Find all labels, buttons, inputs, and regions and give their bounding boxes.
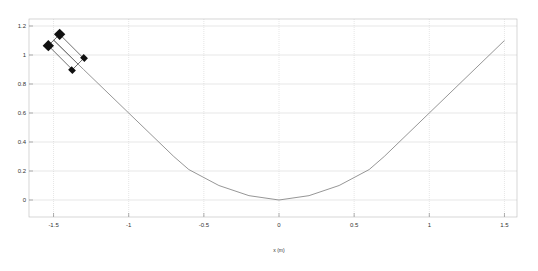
axes-frame xyxy=(29,19,517,217)
svg-text:1: 1 xyxy=(23,52,27,58)
x-axis: -1.5-1-0.500.511.5 xyxy=(48,213,509,228)
svg-text:-1.5: -1.5 xyxy=(48,222,59,228)
svg-text:0.5: 0.5 xyxy=(350,222,359,228)
svg-text:-0.5: -0.5 xyxy=(199,222,210,228)
chart: -1.5-1-0.500.511.5 00.20.40.60.811.2 x (… xyxy=(0,0,538,271)
svg-text:0: 0 xyxy=(277,222,281,228)
svg-text:1.5: 1.5 xyxy=(500,222,509,228)
path-line xyxy=(54,41,505,201)
svg-text:0.8: 0.8 xyxy=(18,81,27,87)
svg-text:0.2: 0.2 xyxy=(18,168,27,174)
svg-text:1.2: 1.2 xyxy=(18,23,27,29)
svg-text:0.4: 0.4 xyxy=(18,139,27,145)
svg-text:-1: -1 xyxy=(126,222,132,228)
svg-text:0.6: 0.6 xyxy=(18,110,27,116)
svg-text:0: 0 xyxy=(23,197,27,203)
x-axis-label: x (m) xyxy=(273,247,285,253)
y-axis: 00.20.40.60.811.2 xyxy=(18,23,33,203)
grid xyxy=(29,19,517,217)
svg-text:1: 1 xyxy=(428,222,432,228)
